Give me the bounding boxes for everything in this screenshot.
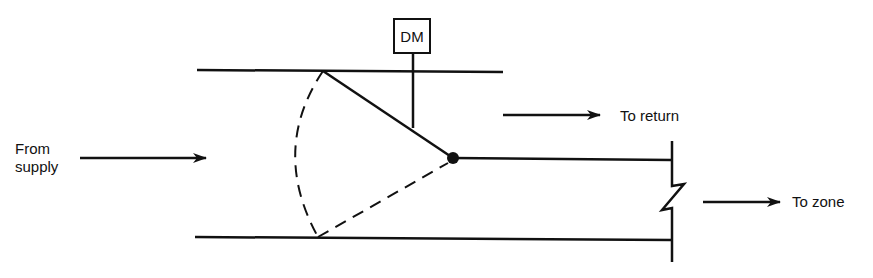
from-supply-label: From supply	[15, 140, 58, 176]
damper-alt-position	[318, 163, 448, 237]
damper-swing-arc	[295, 71, 323, 237]
damper-motor-box: DM	[393, 18, 431, 54]
bottom-duct-wall	[195, 237, 672, 240]
to-return-label: To return	[620, 107, 679, 125]
from-supply-line2: supply	[15, 158, 58, 176]
diagram-canvas: DM From supply To return To zone	[0, 0, 873, 278]
pivot-point	[447, 152, 459, 164]
damper-blade	[323, 71, 453, 158]
diagram-lines	[0, 0, 873, 278]
to-zone-label: To zone	[792, 193, 845, 211]
branch-divider	[453, 158, 672, 160]
from-supply-line1: From	[15, 140, 58, 158]
top-duct-wall	[197, 70, 503, 72]
